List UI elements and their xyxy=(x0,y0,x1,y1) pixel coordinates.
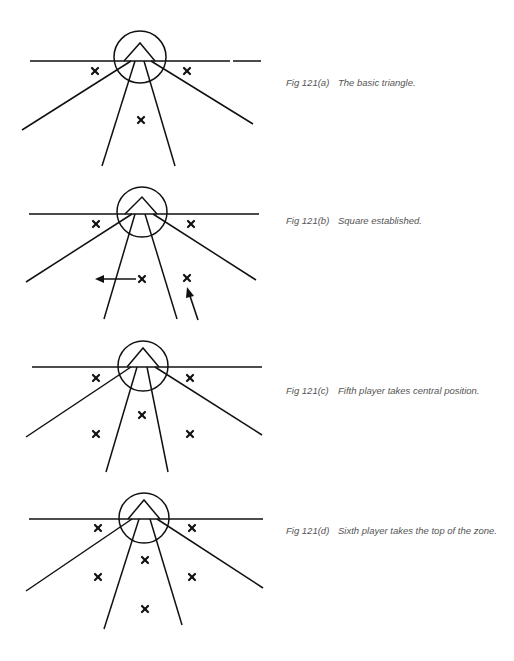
player-x-icon xyxy=(142,606,148,612)
player-x-icon xyxy=(138,117,144,123)
figure-label: Fig 121(a) xyxy=(286,76,338,89)
player-x-icon xyxy=(142,557,148,563)
zone-diagram-d xyxy=(0,485,280,661)
figure-caption: The basic triangle. xyxy=(338,76,508,89)
player-x-icon xyxy=(187,375,193,381)
ray-center-right xyxy=(147,367,168,472)
triangle-apex xyxy=(127,348,159,367)
player-x-icon xyxy=(139,276,145,282)
player-x-icon xyxy=(184,275,190,281)
figure-121d: Fig 121(d) Sixth player takes the top of… xyxy=(0,485,514,661)
triangle-apex xyxy=(125,197,157,214)
figure-label: Fig 121(b) xyxy=(286,214,338,227)
player-x-icon xyxy=(184,68,190,74)
player-x-icon xyxy=(188,221,194,227)
circle-zone xyxy=(117,187,167,237)
ray-right xyxy=(153,214,256,280)
caption-121a: Fig 121(a) The basic triangle. xyxy=(286,76,508,89)
caption-121b: Fig 121(b) Square established. xyxy=(286,214,508,227)
player-x-icon xyxy=(189,525,195,531)
figure-caption: Sixth player takes the top of the zone. xyxy=(338,524,508,537)
figure-121c: Fig 121(c) Fifth player takes central po… xyxy=(0,330,514,485)
triangle-apex xyxy=(124,43,155,61)
player-x-icon xyxy=(93,375,99,381)
player-x-icon xyxy=(189,574,195,580)
ray-center-right xyxy=(145,214,177,319)
figure-121b: Fig 121(b) Square established. xyxy=(0,175,514,330)
zone-diagram-c xyxy=(0,330,280,485)
figure-caption: Square established. xyxy=(338,214,508,227)
figure-121a: Fig 121(a) The basic triangle. xyxy=(0,0,514,175)
ray-center-left xyxy=(104,519,139,629)
player-x-icon xyxy=(93,221,99,227)
caption-121c: Fig 121(c) Fifth player takes central po… xyxy=(286,384,508,397)
ray-right xyxy=(151,61,253,124)
player-x-icon xyxy=(95,525,101,531)
circle-zone xyxy=(114,31,166,83)
player-x-icon xyxy=(93,431,99,437)
ray-center-left xyxy=(106,367,137,472)
player-x-icon xyxy=(187,431,193,437)
figure-caption: Fifth player takes central position. xyxy=(338,384,508,397)
figure-label: Fig 121(c) xyxy=(286,384,338,397)
caption-121d: Fig 121(d) Sixth player takes the top of… xyxy=(286,524,508,537)
ray-center-right xyxy=(150,519,182,625)
figure-label: Fig 121(d) xyxy=(286,524,338,537)
ray-center-right xyxy=(144,61,175,166)
movement-arrow-up xyxy=(186,287,198,320)
ray-left xyxy=(26,519,132,591)
player-x-icon xyxy=(92,68,98,74)
ray-right xyxy=(157,519,263,588)
ray-right xyxy=(155,367,262,435)
player-x-icon xyxy=(139,412,145,418)
triangle-apex xyxy=(128,500,160,519)
zone-diagram-b xyxy=(0,175,280,330)
ray-left xyxy=(22,61,131,130)
player-x-icon xyxy=(95,574,101,580)
zone-diagram-a xyxy=(0,0,280,175)
ray-left xyxy=(26,367,131,437)
ray-left xyxy=(26,214,132,282)
